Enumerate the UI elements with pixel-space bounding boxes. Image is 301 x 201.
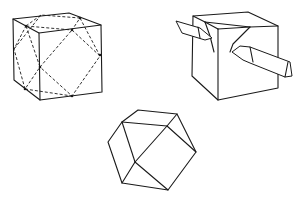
- polyhedron-diagonal-edge: [135, 126, 167, 162]
- knife-left-icon: [176, 21, 212, 40]
- figure-canvas: [0, 0, 301, 201]
- cube1-vertex-dot: [79, 17, 82, 20]
- cube1-vertex-dot: [71, 29, 74, 32]
- knife-right-icon: [232, 46, 292, 77]
- polyhedron-right-edge: [167, 126, 196, 152]
- polyhedron-bottom-left-edge: [122, 162, 135, 183]
- cube1-vertex-dot: [24, 88, 27, 91]
- diagram-svg: [0, 0, 301, 201]
- polyhedron-outline: [108, 110, 196, 190]
- cube1-vertex-dot: [25, 25, 28, 28]
- resulting-polyhedron: [108, 110, 196, 190]
- cube1-vertex-dot: [99, 54, 102, 57]
- cube-with-cut-lines: [13, 13, 102, 100]
- cube1-vertex-dot: [71, 95, 74, 98]
- cube1-front-cut: [40, 30, 100, 96]
- polyhedron-left-inner-edge: [122, 122, 135, 162]
- cube1-left-cut: [14, 26, 40, 89]
- cube-being-cut-with-knives: [176, 12, 292, 100]
- cube1-vertex-dot: [39, 66, 42, 69]
